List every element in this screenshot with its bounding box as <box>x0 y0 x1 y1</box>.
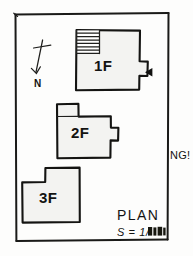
north-arrow: N <box>31 40 50 89</box>
annotation-ng: NG! <box>170 149 190 161</box>
scale-denominator-smudge <box>148 227 166 236</box>
plan-sheet: N 1F 2F 3F <box>0 0 193 256</box>
plan-drawing-canvas: N 1F 2F 3F <box>0 0 193 256</box>
title-block: PLAN S = 1/ <box>117 207 166 238</box>
scale-label: S = 1/ <box>117 226 150 238</box>
north-arrow-label: N <box>34 78 41 89</box>
building-3f[interactable]: 3F <box>22 168 80 223</box>
building-1f-label: 1F <box>94 57 112 74</box>
building-2f-label: 2F <box>71 124 89 141</box>
stair-hatching <box>77 30 100 53</box>
plan-title: PLAN <box>117 207 159 223</box>
building-1f[interactable]: 1F <box>76 30 148 90</box>
building-2f[interactable]: 2F <box>57 104 118 158</box>
building-3f-label: 3F <box>39 189 57 206</box>
